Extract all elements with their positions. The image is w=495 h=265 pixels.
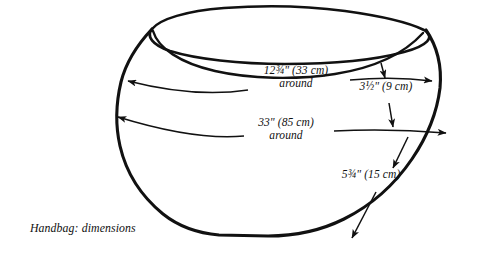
body-height-arrow-lower <box>352 192 376 238</box>
top-band-depth-value: 3½" (9 cm) <box>347 80 425 93</box>
upper-girth-label: 12¾" (33 cm) around <box>243 64 349 90</box>
upper-girth-qualifier: around <box>243 77 349 90</box>
upper-girth-value: 12¾" (33 cm) <box>243 64 349 77</box>
lower-girth-qualifier: around <box>240 129 332 142</box>
figure-caption: Handbag: dimensions <box>30 222 136 235</box>
lower-girth-label: 33" (85 cm) around <box>240 116 332 142</box>
top-band-depth-label: 3½" (9 cm) <box>347 80 425 93</box>
handbag-dimensions-figure: 12¾" (33 cm) around 3½" (9 cm) 33" (85 c… <box>0 0 495 265</box>
band-depth-arrow-up <box>381 63 385 78</box>
band-depth-arrow-down <box>389 103 393 127</box>
body-height-label: 5¾" (15 cm) <box>328 168 414 181</box>
body-height-value: 5¾" (15 cm) <box>328 168 414 181</box>
body-height-arrow-upper <box>393 137 408 168</box>
lower-girth-value: 33" (85 cm) <box>240 116 332 129</box>
lower-girth-leader-right <box>334 130 446 133</box>
lower-girth-leader <box>118 117 244 137</box>
upper-girth-leader <box>128 81 248 93</box>
